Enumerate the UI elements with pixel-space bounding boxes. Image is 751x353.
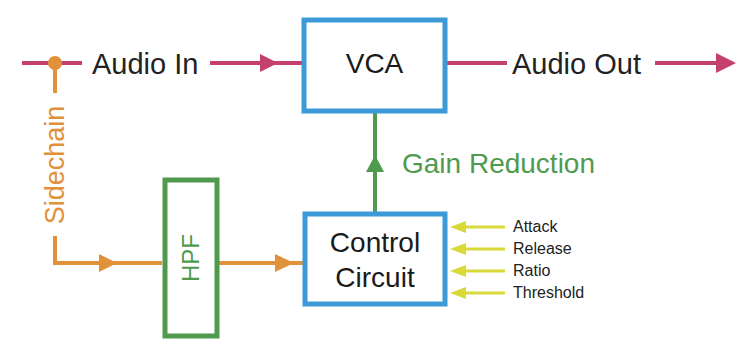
param-release: Release bbox=[513, 241, 572, 257]
hpf-label: HPF bbox=[179, 234, 203, 282]
vca-label: VCA bbox=[304, 50, 445, 78]
hpf-output-arrow-icon bbox=[275, 254, 294, 272]
audio-in-arrow-icon bbox=[260, 54, 278, 72]
control-label-line1: Control bbox=[305, 229, 445, 257]
sidechain-arrow-icon bbox=[99, 254, 117, 272]
audio-in-label: Audio In bbox=[92, 50, 198, 79]
split-node-icon bbox=[48, 56, 62, 70]
param-ratio: Ratio bbox=[513, 263, 550, 279]
attack-arrow-icon bbox=[450, 221, 466, 233]
param-attack: Attack bbox=[513, 219, 557, 235]
audio-out-label: Audio Out bbox=[512, 50, 641, 79]
sidechain-label: Sidechain bbox=[42, 106, 69, 225]
audio-out-arrow-icon bbox=[716, 53, 736, 73]
param-threshold: Threshold bbox=[513, 285, 584, 301]
threshold-arrow-icon bbox=[450, 287, 466, 299]
gain-reduction-label: Gain Reduction bbox=[402, 150, 595, 178]
ratio-arrow-icon bbox=[450, 265, 466, 277]
release-arrow-icon bbox=[450, 243, 466, 255]
gain-reduction-arrow-icon bbox=[366, 155, 384, 172]
control-label-line2: Circuit bbox=[305, 264, 445, 292]
